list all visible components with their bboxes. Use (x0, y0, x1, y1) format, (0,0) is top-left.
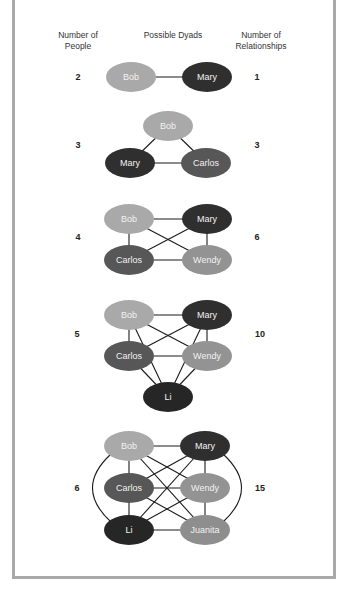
person-node-carlos: Carlos (104, 473, 154, 503)
person-node-wendy: Wendy (180, 473, 230, 503)
person-node-carlos: Carlos (104, 245, 154, 275)
person-node-li: Li (143, 382, 193, 412)
person-name-label: Li (164, 392, 171, 402)
person-name-label: Carlos (116, 483, 143, 493)
person-name-label: Mary (195, 441, 215, 451)
person-node-bob: Bob (104, 431, 154, 461)
person-name-label: Mary (120, 158, 140, 168)
person-node-mary: Mary (180, 431, 230, 461)
person-name-label: Bob (121, 214, 137, 224)
person-node-li: Li (104, 515, 154, 545)
dyad-group-3-people: BobMaryCarlos (105, 111, 231, 178)
person-name-label: Wendy (193, 255, 221, 265)
person-node-bob: Bob (106, 62, 156, 92)
person-node-bob: Bob (104, 204, 154, 234)
person-name-label: Wendy (191, 483, 219, 493)
person-name-label: Bob (121, 441, 137, 451)
person-name-label: Mary (197, 72, 217, 82)
person-node-juanita: Juanita (180, 515, 230, 545)
dyad-group-5-people: BobMaryCarlosWendyLi (104, 300, 232, 412)
person-name-label: Carlos (116, 255, 143, 265)
person-node-carlos: Carlos (104, 341, 154, 371)
person-name-label: Carlos (193, 158, 220, 168)
dyad-group-6-people: BobMaryCarlosWendyLiJuanita (93, 431, 242, 545)
dyads-diagram: BobMaryBobMaryCarlosBobMaryCarlosWendyBo… (0, 0, 344, 602)
person-node-mary: Mary (182, 300, 232, 330)
person-name-label: Wendy (193, 351, 221, 361)
person-name-label: Carlos (116, 351, 143, 361)
person-node-mary: Mary (182, 62, 232, 92)
dyad-group-2-people: BobMary (106, 62, 232, 92)
person-name-label: Bob (121, 310, 137, 320)
person-name-label: Bob (123, 72, 139, 82)
person-name-label: Mary (197, 310, 217, 320)
person-node-bob: Bob (104, 300, 154, 330)
person-node-mary: Mary (105, 148, 155, 178)
person-node-wendy: Wendy (182, 341, 232, 371)
person-node-carlos: Carlos (181, 148, 231, 178)
dyad-group-4-people: BobMaryCarlosWendy (104, 204, 232, 275)
person-node-mary: Mary (182, 204, 232, 234)
person-name-label: Li (125, 525, 132, 535)
person-name-label: Juanita (190, 525, 219, 535)
person-node-bob: Bob (143, 111, 193, 141)
person-name-label: Bob (160, 121, 176, 131)
person-node-wendy: Wendy (182, 245, 232, 275)
person-name-label: Mary (197, 214, 217, 224)
